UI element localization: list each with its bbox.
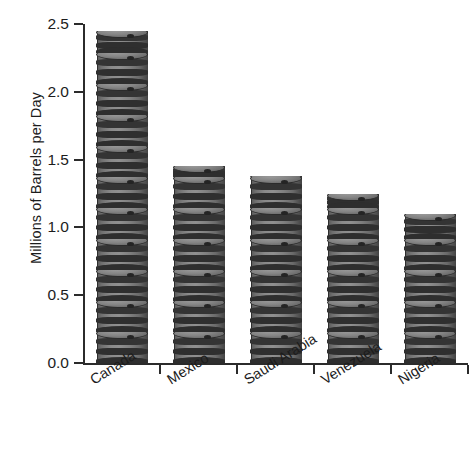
barrel-foot	[173, 233, 225, 239]
barrel-foot	[96, 326, 148, 332]
barrel-rib	[96, 90, 148, 97]
barrel-rib	[96, 255, 148, 262]
barrel-bung-hole	[358, 211, 365, 215]
barrel-bung-hole	[127, 56, 134, 60]
barrel-foot	[96, 233, 148, 239]
barrel-pictogram	[96, 177, 148, 208]
barrel-rib	[173, 245, 225, 252]
barrel-rib	[404, 286, 456, 293]
barrel-pictogram	[173, 166, 225, 177]
barrel-rib	[327, 317, 379, 324]
y-axis-tick-label: 0.0	[47, 354, 69, 372]
x-axis-labels: CanadaMexicoSaudi ArabiaVenezuelaNigeria	[83, 374, 476, 453]
barrel-rib	[96, 193, 148, 200]
barrel-bung-hole	[281, 211, 288, 215]
barrel-rib	[173, 317, 225, 324]
barrel-rib	[173, 338, 225, 345]
barrel-rib	[173, 193, 225, 200]
barrel-pictogram	[404, 301, 456, 332]
barrel-rib	[404, 307, 456, 314]
barrel-foot	[173, 326, 225, 332]
barrel-bung-hole	[204, 273, 211, 277]
bar-venezuela[interactable]	[327, 194, 379, 364]
barrel-bung-hole	[281, 335, 288, 339]
y-axis-tick-label: 1.0	[47, 218, 69, 236]
barrel-rib	[250, 193, 302, 200]
y-axis-tick	[74, 226, 83, 228]
barrel-bung-hole	[281, 242, 288, 246]
barrel-pictogram	[96, 84, 148, 115]
barrel-pictogram	[327, 301, 379, 332]
barrel-foot	[250, 233, 302, 239]
barrel-rib	[404, 338, 456, 345]
barrel-rib	[250, 307, 302, 314]
barrel-bung-hole	[127, 87, 134, 91]
barrel-rib	[96, 224, 148, 231]
barrel-pictogram	[250, 177, 302, 208]
barrel-bung-hole	[435, 217, 442, 221]
barrel-bung-hole	[358, 304, 365, 308]
pictogram-bar-chart: Millions of Barrels per Day 0.00.51.01.5…	[0, 0, 476, 453]
barrel-rib	[250, 317, 302, 324]
y-axis-tick	[74, 23, 83, 25]
barrel-bung-hole	[204, 335, 211, 339]
barrel-bung-hole	[204, 180, 211, 184]
barrel-foot	[250, 264, 302, 270]
x-axis-tick	[467, 365, 469, 374]
barrel-pictogram	[327, 270, 379, 301]
barrel-foot	[96, 78, 148, 84]
barrel-bung-hole	[127, 149, 134, 153]
barrel-rib	[173, 183, 225, 190]
barrel-bung-hole	[127, 180, 134, 184]
barrel-foot	[96, 109, 148, 115]
bar-saudi-arabia[interactable]	[250, 176, 302, 363]
barrel-bung-hole	[358, 335, 365, 339]
y-axis-line	[83, 24, 85, 365]
barrel-pictogram	[250, 239, 302, 270]
barrel-foot	[327, 326, 379, 332]
barrel-pictogram	[96, 301, 148, 332]
barrel-lid	[250, 176, 302, 177]
barrel-foot	[96, 202, 148, 208]
y-axis-tick-label: 1.5	[47, 151, 69, 169]
barrel-pictogram	[250, 270, 302, 301]
barrel-bung-hole	[204, 242, 211, 246]
barrel-pictogram	[327, 239, 379, 270]
barrel-rib	[327, 214, 379, 221]
barrel-pictogram	[96, 208, 148, 239]
barrel-bung-hole	[358, 197, 365, 201]
bar-canada[interactable]	[96, 31, 148, 363]
barrel-rib	[250, 214, 302, 221]
barrel-rib	[96, 245, 148, 252]
barrel-rib	[250, 183, 302, 190]
barrel-bung-hole	[127, 34, 134, 38]
bar-nigeria[interactable]	[404, 214, 456, 363]
barrel-foot	[327, 233, 379, 239]
barrel-rib	[96, 59, 148, 66]
barrel-rib	[173, 307, 225, 314]
barrel-rib	[404, 245, 456, 252]
barrel-rib	[96, 338, 148, 345]
barrel-bung-hole	[435, 273, 442, 277]
barrel-rib	[96, 152, 148, 159]
y-axis-tick	[74, 91, 83, 93]
barrel-bung-hole	[127, 304, 134, 308]
barrel-bung-hole	[281, 273, 288, 277]
barrel-rib	[327, 224, 379, 231]
barrel-pictogram	[173, 301, 225, 332]
barrel-foot	[327, 202, 379, 208]
x-axis-tick	[159, 365, 161, 374]
y-axis-tick-label: 0.5	[47, 286, 69, 304]
barrel-rib	[173, 286, 225, 293]
barrel-pictogram	[250, 301, 302, 332]
barrel-foot	[404, 264, 456, 270]
barrel-lid	[327, 194, 379, 201]
bar-mexico[interactable]	[173, 166, 225, 363]
barrel-bung-hole	[281, 304, 288, 308]
y-axis-tick	[74, 159, 83, 161]
barrel-rib	[96, 69, 148, 76]
barrel-rib	[327, 245, 379, 252]
barrel-foot	[96, 171, 148, 177]
barrel-foot	[173, 202, 225, 208]
barrel-pictogram	[96, 146, 148, 177]
